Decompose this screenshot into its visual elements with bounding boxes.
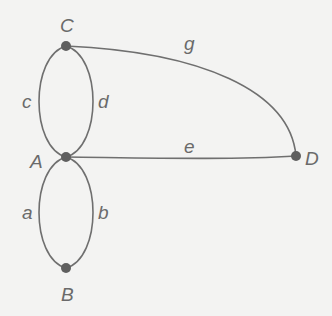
node-label-d: D	[305, 148, 319, 169]
node-b	[61, 263, 71, 273]
node-label-c: C	[60, 15, 74, 36]
edge-label-e: e	[184, 136, 195, 157]
edge-a	[39, 157, 66, 268]
graph-svg: C A B D c d a b e g	[0, 0, 332, 316]
node-d	[291, 151, 301, 161]
edge-label-a: a	[22, 202, 33, 223]
edge-b	[66, 157, 93, 268]
edge-label-b: b	[98, 202, 109, 223]
edge-e	[66, 156, 296, 158]
node-label-b: B	[61, 284, 74, 305]
edge-label-g: g	[184, 33, 195, 54]
edge-label-c: c	[22, 91, 32, 112]
node-label-a: A	[29, 151, 43, 172]
node-c	[61, 41, 71, 51]
edge-label-d: d	[98, 91, 110, 112]
graph-diagram: C A B D c d a b e g	[0, 0, 332, 316]
edge-c	[39, 46, 66, 157]
node-a	[61, 152, 71, 162]
edge-d	[66, 46, 93, 157]
